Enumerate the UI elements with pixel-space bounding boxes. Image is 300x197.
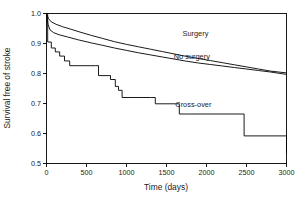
y-axis-title: Survival free of stroke [2,47,12,128]
series-label-cross-over: Cross-over [175,100,212,109]
x-tick-label: 500 [81,168,93,177]
x-tick-label: 2500 [239,168,255,177]
x-axis-ticks [47,164,287,167]
survival-curve-figure: 050010001500200025003000 0.50.60.70.80.9… [0,0,300,197]
x-axis-title: Time (days) [144,182,188,192]
data-series-group [47,14,287,154]
y-axis-tick-labels: 0.50.60.70.80.91.0 [31,9,41,168]
series-label-surgery: Surgery [183,29,209,38]
y-tick-label: 0.9 [31,39,41,48]
curve-cross-over [47,14,287,154]
plot-frame [47,14,287,164]
axis-frame [47,14,287,164]
series-label-no-surgery: No surgery [174,52,210,61]
chart-canvas: 050010001500200025003000 0.50.60.70.80.9… [0,0,300,197]
y-tick-label: 1.0 [31,9,41,18]
x-axis-tick-labels: 050010001500200025003000 [45,168,295,177]
y-tick-label: 0.7 [31,99,41,108]
y-tick-label: 0.6 [31,129,41,138]
x-tick-label: 1500 [159,168,175,177]
x-tick-label: 0 [45,168,49,177]
series-annotations: SurgeryNo surgeryCross-over [174,29,212,109]
y-tick-label: 0.8 [31,69,41,78]
y-tick-label: 0.5 [31,159,41,168]
curve-surgery [47,14,287,73]
x-tick-label: 2000 [199,168,215,177]
x-tick-label: 3000 [279,168,295,177]
x-tick-label: 1000 [119,168,135,177]
y-axis-ticks [43,14,46,164]
